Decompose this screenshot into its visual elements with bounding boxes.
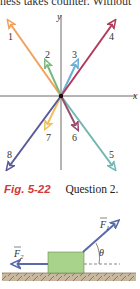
angle-label: θ <box>99 247 104 258</box>
vector-1-label: 1 <box>8 31 13 42</box>
figure-number: Fig. 5-22 <box>4 183 51 195</box>
vector-3-arrow <box>61 62 77 96</box>
vector-5-label: 5 <box>109 149 114 160</box>
vector-8-arrow <box>8 96 61 168</box>
figure-caption: Fig. 5-22 Question 2. <box>4 183 118 195</box>
vector-3-label: 3 <box>72 49 77 60</box>
vector-8-label: 8 <box>7 149 12 160</box>
force-2-label: F2 <box>13 248 24 261</box>
origin-dot <box>59 94 63 98</box>
vector-1-arrow <box>9 22 61 96</box>
ground <box>2 273 136 281</box>
vector-4-label: 4 <box>109 31 114 42</box>
caption-text: Question 2. <box>65 183 118 195</box>
vector-figure: y x 1 2 3 4 5 6 7 8 θ F1 F2 <box>0 0 140 289</box>
vector-7-label: 7 <box>46 132 51 143</box>
vector-5-arrow <box>61 96 114 168</box>
vector-2-label: 2 <box>45 49 50 60</box>
vector-4-arrow <box>61 22 114 96</box>
vector-6-label: 6 <box>72 132 77 143</box>
vector-6-arrow <box>61 96 77 128</box>
x-axis-label: x <box>132 90 138 101</box>
y-axis-label: y <box>56 11 62 22</box>
block <box>48 252 84 273</box>
force-1-label: F1 <box>99 219 110 232</box>
